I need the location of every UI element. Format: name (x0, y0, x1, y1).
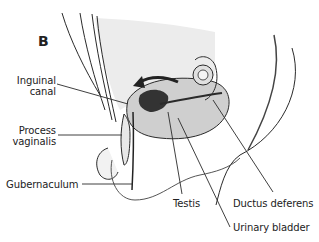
scrotal-fold (111, 158, 240, 200)
leader-urinary-bladder (178, 118, 230, 227)
body-outline-curve (248, 35, 276, 150)
label-gubernaculum: Gubernaculum (6, 179, 78, 190)
label-urinary-bladder: Urinary bladder (233, 222, 310, 233)
label-ductus-deferens: Ductus deferens (233, 198, 313, 209)
label-process-vaginalis: Process vaginalis (10, 125, 56, 147)
panel-letter: B (38, 33, 49, 49)
anatomy-figure: B Inguinal canal Process vaginalis Guber… (0, 0, 319, 242)
body-outline-curve (216, 48, 295, 205)
leader-ductus-deferens (213, 100, 273, 192)
label-inguinal-canal: Inguinal canal (14, 75, 56, 97)
abdominal-wall-line (62, 13, 100, 95)
process-vaginalis-shape (121, 114, 130, 165)
scrotum-outline (97, 148, 118, 179)
label-testis: Testis (173, 198, 200, 209)
